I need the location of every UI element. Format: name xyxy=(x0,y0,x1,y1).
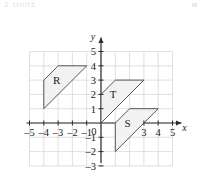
x-tick-label: 3 xyxy=(141,127,146,138)
plot-canvas: –5–4–3–2–134554321–1–2–30 RTS xy xyxy=(0,0,200,181)
x-tick-label: –2 xyxy=(66,127,78,138)
parallelogram-r xyxy=(44,66,87,109)
origin-label: 0 xyxy=(91,126,96,137)
x-tick-label: 4 xyxy=(156,127,162,138)
y-tick-label: –3 xyxy=(85,161,97,172)
y-tick-label: 5 xyxy=(91,46,96,57)
shape-label-r: R xyxy=(53,74,61,86)
shape-label-s: S xyxy=(124,117,130,129)
y-tick-label: 3 xyxy=(91,75,96,86)
x-tick-label: –5 xyxy=(23,127,35,138)
y-axis-label: y xyxy=(90,31,96,42)
x-axis-label: x xyxy=(181,122,187,133)
x-tick-label: –4 xyxy=(38,127,50,138)
y-tick-label: 2 xyxy=(91,89,96,100)
x-tick-label: 5 xyxy=(170,127,175,138)
parallelogram-s xyxy=(115,109,158,152)
y-tick-label: –2 xyxy=(85,146,97,157)
y-tick-label: 1 xyxy=(91,104,96,115)
shape-label-t: T xyxy=(110,88,117,100)
coordinate-plane-figure: 2 Units –5–4–3–2–134554321–1–2–30 RTS xy xyxy=(0,0,200,181)
y-tick-label: 4 xyxy=(91,61,97,72)
x-tick-label: –3 xyxy=(52,127,64,138)
